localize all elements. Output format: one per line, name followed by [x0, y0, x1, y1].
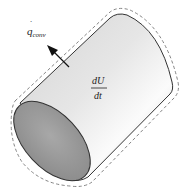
heat-flow-dot: ˙	[29, 19, 32, 29]
cylinder-diagram: qconv ˙ dU dt	[0, 0, 191, 193]
fraction-numerator: dU	[92, 75, 105, 86]
fraction-denominator: dt	[94, 90, 102, 101]
heat-flow-arrow	[47, 45, 69, 67]
